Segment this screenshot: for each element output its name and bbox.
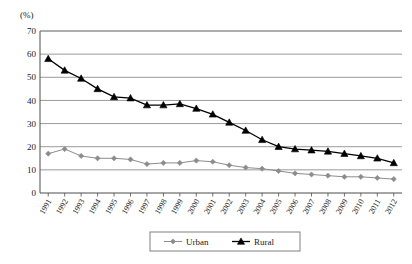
y-tick-label: 20 [27, 142, 37, 152]
chart-legend: UrbanRural [150, 232, 300, 251]
data-point-marker [177, 160, 182, 165]
x-tick-label: 2008 [317, 198, 333, 216]
x-axis-ticks [48, 193, 394, 197]
data-point-marker [144, 161, 149, 166]
x-tick-label: 2000 [186, 198, 202, 216]
x-tick-label: 1995 [103, 198, 119, 216]
y-tick-label: 0 [32, 188, 37, 198]
data-point-marker [94, 85, 101, 91]
line-chart-canvas: 010203040506070 199119921993199419951996… [0, 0, 412, 264]
data-point-marker [260, 166, 265, 171]
x-tick-label: 2011 [367, 198, 383, 216]
x-tick-label: 1998 [153, 198, 169, 216]
x-tick-label: 2005 [268, 198, 284, 216]
series-line [48, 59, 394, 163]
x-tick-label: 2006 [284, 198, 300, 216]
data-point-marker [128, 157, 133, 162]
data-point-marker [242, 127, 249, 133]
y-tick-label: 30 [27, 119, 37, 129]
y-axis-tick-labels: 010203040506070 [27, 26, 37, 198]
data-point-marker [325, 173, 330, 178]
x-tick-label: 2004 [252, 198, 268, 216]
y-tick-label: 10 [27, 165, 37, 175]
data-point-marker [226, 119, 233, 125]
legend-label-rural: Rural [254, 237, 274, 247]
data-point-marker [292, 171, 297, 176]
data-point-marker [210, 159, 215, 164]
x-tick-label: 2001 [202, 198, 218, 216]
y-tick-label: 40 [27, 96, 37, 106]
y-tick-label: 70 [27, 26, 37, 36]
x-tick-label: 2010 [350, 198, 366, 216]
x-tick-label: 1991 [38, 198, 54, 216]
data-point-marker [276, 168, 281, 173]
x-tick-label: 1996 [120, 198, 136, 216]
x-tick-label: 1994 [87, 198, 103, 216]
data-point-marker [194, 158, 199, 163]
data-point-marker [62, 146, 67, 151]
series-rural [45, 55, 398, 166]
x-tick-label: 2003 [235, 198, 251, 216]
data-point-marker [309, 172, 314, 177]
data-point-marker [259, 136, 266, 142]
data-point-marker [78, 75, 85, 81]
gridlines [40, 31, 402, 170]
x-tick-label: 1997 [136, 198, 152, 216]
data-point-marker [342, 174, 347, 179]
x-tick-label: 1992 [54, 198, 70, 216]
data-point-marker [45, 55, 52, 61]
data-point-marker [161, 160, 166, 165]
data-point-marker [227, 163, 232, 168]
plot-frame [40, 31, 402, 193]
chart-figure: (%) 010203040506070 19911992199319941995… [0, 0, 412, 264]
x-axis-tick-labels: 1991199219931994199519961997199819992000… [38, 198, 399, 216]
data-point-marker [46, 151, 51, 156]
x-tick-label: 2002 [219, 198, 235, 216]
data-point-marker [358, 174, 363, 179]
data-point-marker [243, 165, 248, 170]
legend-label-urban: Urban [186, 237, 209, 247]
x-tick-label: 1999 [169, 198, 185, 216]
x-tick-label: 2007 [301, 198, 317, 216]
data-point-marker [391, 177, 396, 182]
x-tick-label: 1993 [71, 198, 87, 216]
x-tick-label: 2012 [383, 198, 399, 216]
data-point-marker [95, 156, 100, 161]
y-tick-label: 60 [27, 49, 37, 59]
data-point-marker [375, 175, 380, 180]
data-point-marker [79, 153, 84, 158]
y-tick-label: 50 [27, 72, 37, 82]
data-point-marker [61, 67, 68, 73]
data-point-marker [111, 156, 116, 161]
x-tick-label: 2009 [334, 198, 350, 216]
